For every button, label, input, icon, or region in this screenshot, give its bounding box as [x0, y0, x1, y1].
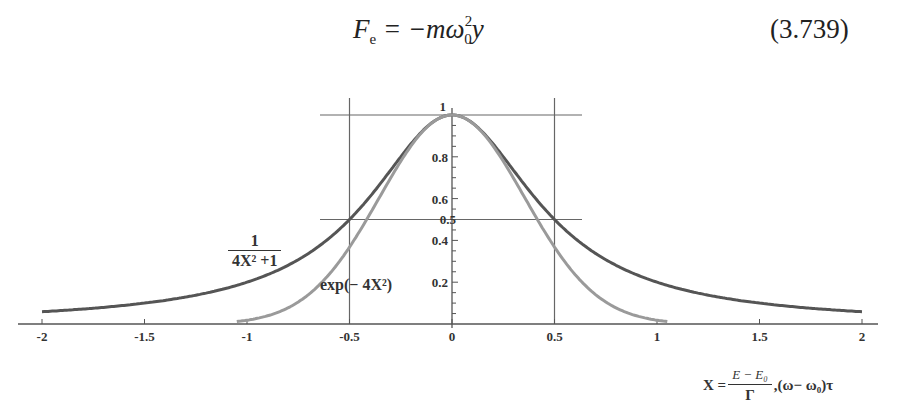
- lineshape-chart: -2-1.5-1-0.500.511.520.20.40.50.60.81: [0, 0, 900, 414]
- y-tick-label: 0.4: [432, 233, 449, 248]
- gaussian-label: exp(− 4X²): [320, 276, 392, 294]
- x-tick-label: -2: [37, 329, 48, 344]
- y-tick-label: 0.2: [432, 275, 448, 290]
- x-axis-label: X = E − E₀ Γ ,(ω− ω₀)τ: [703, 366, 833, 405]
- lorentzian-label: 1 4X² +1: [228, 232, 281, 271]
- x-tick-label: -1.5: [134, 329, 155, 344]
- x-tick-label: 2: [859, 329, 866, 344]
- x-tick-label: 0: [449, 329, 456, 344]
- x-tick-label: -0.5: [339, 329, 360, 344]
- x-tick-label: 1.5: [751, 329, 768, 344]
- y-tick-label: 0.8: [432, 150, 449, 165]
- y-tick-label: 1: [440, 99, 447, 114]
- x-tick-label: 0.5: [546, 329, 563, 344]
- x-tick-label: 1: [654, 329, 661, 344]
- y-tick-label: 0.5: [440, 212, 457, 227]
- x-tick-label: -1: [242, 329, 253, 344]
- y-tick-label: 0.6: [432, 192, 449, 207]
